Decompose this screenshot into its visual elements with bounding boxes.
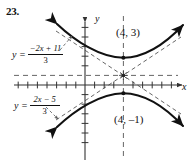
equation1-numerator: −2x + 11 [28,44,64,54]
x-axis-label: x [182,82,186,92]
plot-area [14,16,183,160]
equation1-fraction: −2x + 11 3 [28,44,64,64]
equation2-denominator: 3 [41,106,49,116]
equation1-lhs: y = [12,50,26,59]
vertex-lower-label: (4, –1) [114,114,143,125]
vertex-upper-label: (4, 3) [116,27,140,38]
center-point-dot [122,74,125,77]
asymptote-negative-slope-equation: y = −2x + 11 3 [12,44,63,64]
equation2-numerator: 2x − 5 [32,95,58,105]
y-axis-label: y [95,14,99,24]
hyperbola-graph [0,0,194,164]
equation2-lhs: y = [14,101,28,110]
equation1-denominator: 3 [41,55,49,65]
vertex-upper-dot [121,56,125,60]
exercise-number: 23. [6,6,19,17]
vertex-lower-dot [121,91,125,95]
asymptote-positive-slope-equation: y = 2x − 5 3 [14,95,60,115]
equation2-fraction: 2x − 5 3 [30,95,60,115]
